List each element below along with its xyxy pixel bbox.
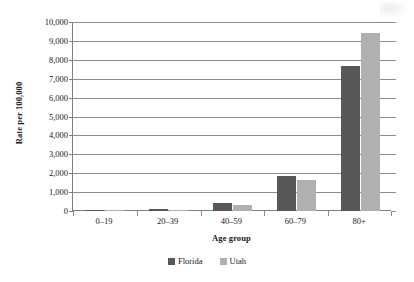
y-axis-tick-label: 0 — [18, 207, 68, 216]
bar-florida-1 — [149, 209, 168, 211]
x-axis-tick-label: 40–59 — [200, 216, 264, 226]
bar-florida-4 — [341, 66, 360, 211]
x-axis-tick-label: 60–79 — [263, 216, 327, 226]
bar-utah-1 — [169, 210, 188, 211]
bar-group — [201, 22, 265, 211]
bar-group — [328, 22, 392, 211]
x-axis-tick-label: 0–19 — [72, 216, 136, 226]
bar-utah-2 — [233, 205, 252, 211]
y-axis-tick-labels: 01,0002,0003,0004,0005,0006,0007,0008,00… — [18, 22, 68, 211]
bar-florida-0 — [85, 210, 104, 211]
x-axis-tick-label: 80+ — [327, 216, 391, 226]
plot-area — [72, 22, 391, 211]
scan-artifact — [380, 2, 410, 18]
bar-group — [264, 22, 328, 211]
x-axis-title: Age group — [72, 233, 391, 243]
bar-chart-figure: Rate per 100,000 01,0002,0003,0004,0005,… — [0, 0, 414, 282]
y-axis-tick-label: 7,000 — [18, 74, 68, 83]
y-axis-tick-label: 5,000 — [18, 112, 68, 121]
x-axis-tickmark — [391, 211, 392, 216]
legend-entry-utah: Utah — [220, 257, 247, 266]
x-axis-tick-labels: 0–1920–3940–5960–7980+ — [72, 216, 391, 230]
bar-florida-2 — [213, 203, 232, 212]
legend-swatch-icon — [168, 258, 175, 265]
y-axis-tick-label: 1,000 — [18, 188, 68, 197]
legend-swatch-icon — [220, 258, 227, 265]
legend-label: Florida — [178, 257, 203, 266]
y-axis-tick-label: 8,000 — [18, 55, 68, 64]
legend-entry-florida: Florida — [168, 257, 203, 266]
bar-florida-3 — [277, 176, 296, 211]
y-axis-tick-label: 6,000 — [18, 93, 68, 102]
x-axis-tick-label: 20–39 — [136, 216, 200, 226]
y-axis-tick-label: 4,000 — [18, 131, 68, 140]
y-axis-tick-label: 3,000 — [18, 150, 68, 159]
bars-layer — [73, 22, 392, 211]
bar-utah-3 — [297, 180, 316, 211]
bar-utah-4 — [361, 33, 380, 211]
y-axis-tick-label: 2,000 — [18, 169, 68, 178]
y-axis-tick-label: 10,000 — [18, 18, 68, 27]
bar-group — [73, 22, 137, 211]
chart-legend: FloridaUtah — [0, 257, 414, 266]
bar-group — [137, 22, 201, 211]
bar-utah-0 — [105, 210, 124, 211]
y-axis-tick-label: 9,000 — [18, 37, 68, 46]
legend-label: Utah — [230, 257, 247, 266]
